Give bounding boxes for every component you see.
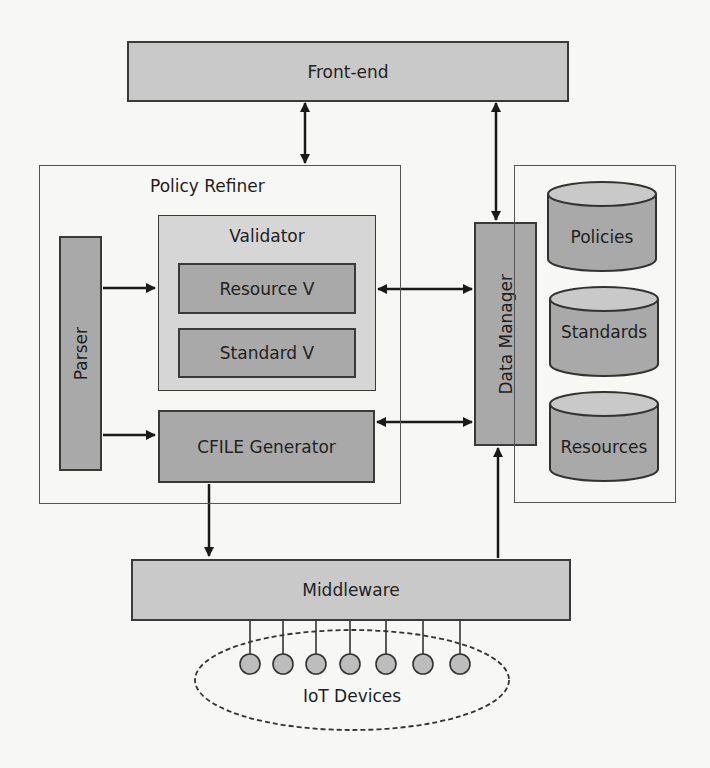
middleware-label: Middleware bbox=[302, 580, 400, 600]
resource-v-label: Resource V bbox=[220, 279, 315, 299]
standards-database: Standards bbox=[548, 285, 660, 378]
cfile-generator-label: CFILE Generator bbox=[197, 437, 336, 457]
standard-v-label: Standard V bbox=[220, 343, 314, 363]
iot-device-nodes bbox=[240, 621, 470, 674]
resources-label: Resources bbox=[548, 437, 660, 457]
frontend-label: Front-end bbox=[307, 62, 388, 82]
standards-label: Standards bbox=[548, 322, 660, 342]
policies-label: Policies bbox=[546, 227, 658, 247]
data-manager-label: Data Manager bbox=[496, 274, 516, 395]
iot-devices-cloud bbox=[195, 630, 509, 730]
resource-v-box: Resource V bbox=[178, 263, 356, 314]
middleware-box: Middleware bbox=[131, 559, 571, 621]
standard-v-box: Standard V bbox=[178, 328, 356, 378]
validator-label: Validator bbox=[159, 226, 375, 246]
parser-box: Parser bbox=[59, 236, 102, 471]
iot-devices-label: IoT Devices bbox=[292, 686, 412, 706]
frontend-box: Front-end bbox=[127, 41, 569, 102]
parser-label: Parser bbox=[71, 327, 91, 380]
policies-database: Policies bbox=[546, 180, 658, 273]
resources-database: Resources bbox=[548, 390, 660, 483]
cfile-generator-box: CFILE Generator bbox=[158, 410, 375, 483]
policy-refiner-label: Policy Refiner bbox=[150, 176, 265, 196]
